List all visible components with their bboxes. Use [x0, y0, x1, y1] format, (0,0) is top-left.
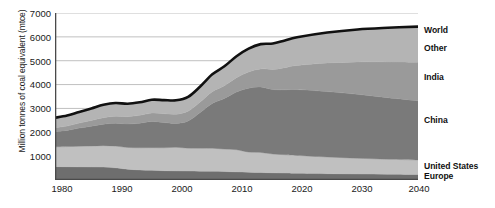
y-tick-1000: 1000: [5, 151, 51, 162]
x-tick-2000: 2000: [171, 183, 192, 194]
x-tick-2010: 2010: [231, 183, 252, 194]
x-tick-1980: 1980: [51, 183, 72, 194]
y-tick-4000: 4000: [5, 79, 51, 90]
plot-area: [55, 13, 418, 180]
legend-item-other: Other: [424, 43, 447, 53]
x-tick-2040: 2040: [408, 183, 429, 194]
y-tick-5000: 5000: [5, 55, 51, 66]
x-tick-1990: 1990: [111, 183, 132, 194]
y-tick-2000: 2000: [5, 127, 51, 138]
legend-item-india: India: [424, 72, 444, 82]
stacked-area-chart-figure: Million tonnes of coal equivalent (mtce)…: [0, 0, 495, 208]
x-tick-2020: 2020: [291, 183, 312, 194]
chart-canvas: [55, 13, 418, 180]
legend-item-world: World: [424, 25, 448, 35]
y-tick-3000: 3000: [5, 103, 51, 114]
y-axis-tick-labels: 1000 2000 3000 4000 5000 6000 7000: [3, 13, 51, 180]
y-tick-7000: 7000: [5, 8, 51, 19]
y-tick-6000: 6000: [5, 31, 51, 42]
legend-item-united-states: United States: [424, 161, 478, 171]
legend-item-china: China: [424, 115, 448, 125]
x-tick-2030: 2030: [351, 183, 372, 194]
legend-item-europe: Europe: [424, 171, 453, 181]
